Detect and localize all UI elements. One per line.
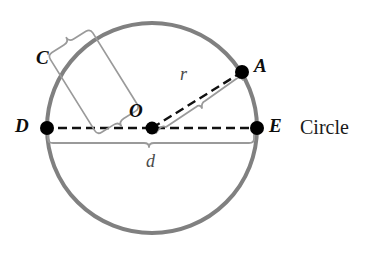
point-label-D: D: [15, 116, 29, 135]
radius-brace-stroke: [156, 78, 243, 133]
arc-label-C: C: [36, 48, 49, 67]
point-dot-O: [146, 122, 159, 135]
measure-label-d: d: [146, 152, 155, 170]
point-dot-D: [40, 121, 54, 135]
measure-label-r: r: [180, 65, 187, 83]
circle-diagram-figure: C A O D E r d Circle: [0, 0, 369, 264]
point-label-A: A: [254, 56, 267, 75]
radius-dashed-line: [152, 72, 242, 128]
point-label-O: O: [129, 101, 143, 120]
figure-caption: Circle: [300, 117, 349, 137]
point-dot-E: [250, 121, 264, 135]
point-dot-A: [235, 65, 249, 79]
point-label-E: E: [269, 116, 282, 135]
